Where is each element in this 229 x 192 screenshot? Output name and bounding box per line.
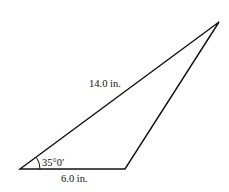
- side-label-base: 6.0 in.: [61, 173, 88, 184]
- side-label-hypotenuse: 14.0 in.: [89, 78, 121, 89]
- angle-label: 35°0′: [42, 157, 64, 168]
- triangle-outline: [20, 22, 219, 169]
- angle-arc: [36, 158, 40, 170]
- triangle-figure: 14.0 in. 35°0′ 6.0 in.: [0, 0, 229, 192]
- triangle-diagram: 14.0 in. 35°0′ 6.0 in.: [0, 0, 229, 192]
